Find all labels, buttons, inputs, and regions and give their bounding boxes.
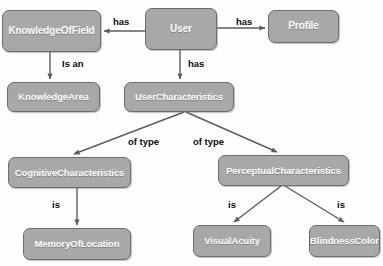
ontology-diagram: KnowledgeOfField User Profile KnowledgeA… xyxy=(0,0,383,266)
node-blindness-color[interactable]: BlindnessColor xyxy=(309,225,380,257)
node-knowledge-of-field[interactable]: KnowledgeOfField xyxy=(2,10,101,52)
edge-perceptual-is-visualAcuity xyxy=(234,186,281,222)
node-label: UserCharacteristics xyxy=(135,92,223,102)
edge-label-of-type-perceptual: of type xyxy=(193,136,224,147)
edge-label-of-type-cognitive: of type xyxy=(128,136,159,147)
node-label: User xyxy=(170,24,192,35)
node-visual-acuity[interactable]: VisualAcuity xyxy=(193,225,271,257)
node-label: PerceptualCharacteristics xyxy=(226,166,341,176)
edge-userCharacteristics-oftype-cognitive xyxy=(74,112,184,154)
node-label: KnowledgeArea xyxy=(18,92,89,102)
edge-label-is-memory-of-location: is xyxy=(52,199,60,210)
node-user-characteristics[interactable]: UserCharacteristics xyxy=(124,82,234,112)
node-label: BlindnessColor xyxy=(310,236,379,246)
node-memory-of-location[interactable]: MemoryOfLocation xyxy=(23,228,131,260)
node-cognitive-characteristics[interactable]: CognitiveCharacteristics xyxy=(8,157,131,188)
edge-label-user-has-knowledge-of-field: has xyxy=(113,16,129,27)
edge-label-knowledge-of-field-is-an: Is an xyxy=(62,58,84,69)
node-label: VisualAcuity xyxy=(204,236,260,246)
node-perceptual-characteristics[interactable]: PerceptualCharacteristics xyxy=(218,155,349,186)
node-label: KnowledgeOfField xyxy=(8,26,94,37)
node-knowledge-area[interactable]: KnowledgeArea xyxy=(7,82,100,112)
node-label: Profile xyxy=(288,21,318,32)
node-label: CognitiveCharacteristics xyxy=(15,168,125,178)
node-user[interactable]: User xyxy=(145,8,217,50)
edge-label-user-has-user-characteristics: has xyxy=(188,58,204,69)
edge-label-is-blindness-color: is xyxy=(337,199,345,210)
edge-perceptual-is-blindnessColor xyxy=(285,186,344,222)
edge-label-is-visual-acuity: is xyxy=(228,199,236,210)
node-profile[interactable]: Profile xyxy=(268,10,339,43)
edge-label-user-has-profile: has xyxy=(236,16,252,27)
node-label: MemoryOfLocation xyxy=(35,239,120,249)
